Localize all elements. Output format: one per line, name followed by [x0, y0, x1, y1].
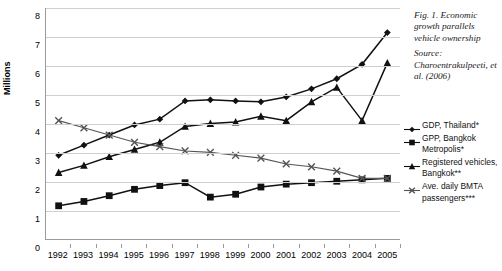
gridline: [46, 153, 400, 154]
legend-item-label: Registered vehicles, Bangkok**: [422, 157, 502, 180]
x-axis-tick-labels: 1992199319941995199619971998199920002001…: [45, 244, 400, 260]
y-axis-tick: 8: [18, 11, 40, 21]
x-axis-tickmark: [223, 244, 224, 248]
figure-caption: Fig. 1. Economic growth parallels vehicl…: [414, 10, 502, 82]
x-axis-tick: 1997: [174, 250, 194, 260]
y-axis-tick: 6: [18, 69, 40, 79]
x-axis-tick: 2000: [251, 250, 271, 260]
x-axis-tick: 2003: [327, 250, 347, 260]
legend-item[interactable]: Registered vehicles, Bangkok**: [404, 157, 502, 180]
cross-marker-icon: [404, 186, 420, 188]
y-axis-tick: 4: [18, 127, 40, 137]
x-axis-tickmark: [375, 244, 376, 248]
x-axis-tickmark: [248, 244, 249, 248]
gridline: [46, 8, 400, 9]
y-axis-tick: 7: [18, 40, 40, 50]
x-axis-tick: 2002: [301, 250, 321, 260]
data-series: [55, 117, 390, 182]
x-axis-tickmark: [400, 244, 401, 248]
y-axis-tick: 5: [18, 98, 40, 108]
caption-source: Source: Charoentrakulpeeti, et al. (2006…: [414, 48, 502, 82]
x-axis-tick: 2001: [276, 250, 296, 260]
legend-item-label: Ave. daily BMTA passengers***: [422, 181, 502, 204]
x-axis-tick: 1994: [98, 250, 118, 260]
x-axis-tickmark: [172, 244, 173, 248]
x-axis-tickmark: [146, 244, 147, 248]
y-axis-tick: 2: [18, 185, 40, 195]
legend-item[interactable]: Ave. daily BMTA passengers***: [404, 181, 502, 204]
plot-region: [45, 8, 400, 240]
y-axis-title: Millions: [2, 81, 12, 95]
legend-item[interactable]: GDP, Thailand*: [404, 120, 502, 132]
y-axis-tick: 1: [18, 214, 40, 224]
gridline: [46, 124, 400, 125]
x-axis-tick: 1995: [124, 250, 144, 260]
legend-item-label: GDP, Thailand*: [422, 120, 502, 132]
caption-title: Fig. 1. Economic growth parallels vehicl…: [414, 10, 481, 43]
gridline: [46, 211, 400, 212]
gridline: [46, 37, 400, 38]
x-axis-tick: 1999: [225, 250, 245, 260]
chart-area: Millions 012345678 199219931994199519961…: [0, 0, 418, 271]
y-axis-tick-labels: 012345678: [18, 8, 40, 240]
legend-item-label: GPP, Bangkok Metropolis*: [422, 133, 502, 156]
x-axis-tick: 2005: [377, 250, 397, 260]
figure-container: Millions 012345678 199219931994199519961…: [0, 0, 502, 271]
gridline: [46, 182, 400, 183]
x-axis-tickmark: [349, 244, 350, 248]
diamond-marker-icon: [404, 125, 420, 127]
x-axis-tickmark: [273, 244, 274, 248]
x-axis-tick: 1998: [200, 250, 220, 260]
x-axis-tickmark: [324, 244, 325, 248]
x-axis-tickmark: [70, 244, 71, 248]
square-marker-icon: [404, 138, 420, 140]
chart-legend: GDP, Thailand*GPP, Bangkok Metropolis*Re…: [404, 120, 502, 205]
x-axis-tickmark: [96, 244, 97, 248]
x-axis-tick: 2004: [352, 250, 372, 260]
x-axis-tick: 1992: [48, 250, 68, 260]
x-axis-tickmark: [197, 244, 198, 248]
legend-item[interactable]: GPP, Bangkok Metropolis*: [404, 133, 502, 156]
data-series: [55, 29, 390, 158]
x-axis-tickmark: [299, 244, 300, 248]
y-axis-tick: 0: [18, 243, 40, 253]
x-axis-tick: 1996: [149, 250, 169, 260]
y-axis-tick: 3: [18, 156, 40, 166]
x-axis-tickmark: [121, 244, 122, 248]
data-series: [55, 175, 390, 209]
gridline: [46, 66, 400, 67]
gridline: [46, 95, 400, 96]
x-axis-tick: 1993: [73, 250, 93, 260]
triangle-marker-icon: [404, 162, 420, 164]
